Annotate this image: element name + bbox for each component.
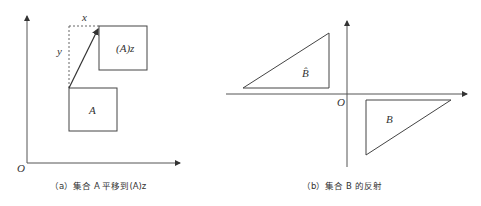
translation-arrow xyxy=(69,29,98,88)
panel-b-diagram: O B̂ B （b）集合 B 的反射 xyxy=(226,21,467,191)
origin-label-b: O xyxy=(337,96,345,108)
caption-b: （b）集合 B 的反射 xyxy=(302,181,382,191)
set-b-triangle xyxy=(366,100,451,155)
origin-label-a: O xyxy=(17,162,25,174)
panel-a-diagram: O A (A)z x y （a）集合 A 平移到(A)z xyxy=(17,11,180,191)
set-a-label: A xyxy=(88,104,96,116)
caption-a: （a）集合 A 平移到(A)z xyxy=(50,181,147,191)
y-offset-label: y xyxy=(56,45,62,57)
reflected-triangle xyxy=(243,33,329,88)
set-b-label: B xyxy=(386,113,393,125)
x-offset-label: x xyxy=(81,11,87,23)
reflected-set-label: B̂ xyxy=(302,67,309,79)
translated-set-label: (A)z xyxy=(116,42,135,55)
